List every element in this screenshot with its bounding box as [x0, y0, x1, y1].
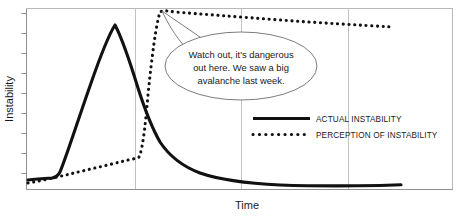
- legend: ACTUAL INSTABILITY PERCEPTION OF INSTABI…: [253, 115, 438, 140]
- speech-bubble-line-3: avalanche last week.: [197, 75, 284, 86]
- chart-canvas: Watch out, it's dangerous out here. We s…: [0, 0, 459, 216]
- legend-label-perception-of-instability: PERCEPTION OF INSTABILITY: [316, 131, 438, 140]
- legend-label-actual-instability: ACTUAL INSTABILITY: [316, 115, 402, 124]
- y-axis-title: Instability: [3, 76, 15, 122]
- instability-perception-figure: Watch out, it's dangerous out here. We s…: [0, 0, 459, 216]
- speech-bubble-line-2: out here. We saw a big: [193, 62, 289, 73]
- y-axis: [22, 9, 27, 189]
- speech-bubble-line-1: Watch out, it's dangerous: [188, 49, 293, 60]
- x-axis-title: Time: [235, 199, 259, 211]
